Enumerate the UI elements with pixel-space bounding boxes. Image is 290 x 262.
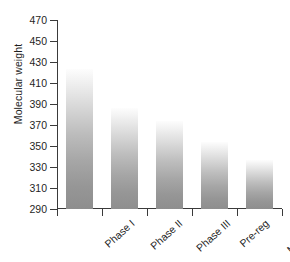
y-axis-tick-label: 470 — [29, 14, 47, 27]
y-axis-tick: 310 — [50, 188, 57, 189]
y-axis-tick-label: 430 — [29, 56, 47, 69]
y-axis-tick: 410 — [50, 83, 57, 84]
y-axis-tick-label: 370 — [29, 119, 47, 132]
y-axis-tick: 450 — [50, 41, 57, 42]
bar — [246, 160, 273, 209]
y-axis-tick: 350 — [50, 146, 57, 147]
x-axis-tick — [57, 209, 58, 216]
y-axis-tick-label: 310 — [29, 182, 47, 195]
x-axis-category-label: Marketed — [284, 217, 290, 255]
y-axis-tick-label: 410 — [29, 77, 47, 90]
y-axis-title: Molecular weight — [12, 19, 24, 149]
y-axis-tick-label: 390 — [29, 98, 47, 111]
x-axis-category-label: Phase III — [193, 217, 232, 254]
bar-chart: Molecular weight 47045043041039037035033… — [0, 0, 290, 262]
y-axis-tick: 290 — [50, 209, 57, 210]
y-axis-tick: 390 — [50, 104, 57, 105]
bar — [201, 142, 228, 209]
y-axis-tick: 330 — [50, 167, 57, 168]
x-axis-category-label: Pre-reg — [236, 217, 270, 249]
x-axis-tick — [192, 209, 193, 216]
x-axis-tick — [147, 209, 148, 216]
bar — [66, 69, 93, 209]
y-axis-tick: 370 — [50, 125, 57, 126]
y-axis-tick: 470 — [50, 20, 57, 21]
x-axis-category-label: Phase I — [102, 217, 136, 250]
x-axis-category-label: Phase II — [147, 217, 184, 252]
x-axis-tick — [282, 209, 283, 216]
x-axis-tick — [237, 209, 238, 216]
y-axis-tick: 430 — [50, 62, 57, 63]
bar — [111, 108, 138, 209]
y-axis-tick-label: 330 — [29, 161, 47, 174]
y-axis-tick-label: 350 — [29, 140, 47, 153]
y-axis-tick-label: 290 — [29, 203, 47, 216]
bar — [156, 121, 183, 209]
y-axis-line — [57, 20, 58, 209]
y-axis-tick-label: 450 — [29, 35, 47, 48]
x-axis-tick — [102, 209, 103, 216]
plot-area: 470450430410390370350330310290 Phase IPh… — [57, 20, 282, 209]
